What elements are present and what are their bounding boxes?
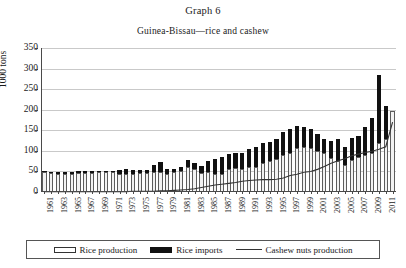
x-axis-tick-label: 1973 [129, 197, 137, 213]
chart-legend: Rice production Rice imports Cashew nuts… [26, 240, 380, 259]
x-axis-tick-mark [358, 191, 359, 194]
x-axis-tick-mark [99, 191, 100, 194]
x-axis-tick-mark [304, 191, 305, 194]
y-axis-tick-mark [35, 151, 38, 152]
x-axis-tick-label: 1979 [170, 197, 178, 213]
chart-subtitle: Guinea-Bissau—rice and cashew [0, 26, 406, 36]
x-axis-tick-label: 1963 [61, 197, 69, 213]
x-axis-tick-mark [297, 191, 298, 194]
x-axis-tick-mark [270, 191, 271, 194]
x-axis-tick-mark [379, 191, 380, 194]
x-axis-tick-mark [72, 191, 73, 194]
x-axis-tick-label: 2009 [375, 197, 383, 213]
x-axis-tick-mark [222, 191, 223, 194]
cashew-nuts-production-line [44, 122, 392, 192]
x-axis-tick-mark [317, 191, 318, 194]
x-axis-tick-mark [393, 191, 394, 194]
x-axis-tick-mark [181, 191, 182, 194]
legend-item-rice-production: Rice production [54, 245, 138, 255]
chart-figure: Graph 6 Guinea-Bissau—rice and cashew 10… [0, 0, 406, 268]
x-axis-tick-mark [201, 191, 202, 194]
x-axis-tick-mark [195, 191, 196, 194]
x-axis-tick-mark [290, 191, 291, 194]
x-axis-tick-mark [120, 191, 121, 194]
x-axis-tick-label: 2011 [389, 197, 397, 213]
x-axis-tick-label: 1985 [211, 197, 219, 213]
x-axis-tick-label: 2003 [334, 197, 342, 213]
y-axis-tick-mark [35, 171, 38, 172]
x-axis-tick-label: 1991 [252, 197, 260, 213]
y-axis-tick-mark [35, 110, 38, 111]
x-axis-tick-mark [188, 191, 189, 194]
legend-item-rice-imports: Rice imports [150, 245, 222, 255]
x-axis-tick-label: 1989 [239, 197, 247, 213]
x-axis-tick-mark [331, 191, 332, 194]
x-axis-tick-mark [92, 191, 93, 194]
x-axis-tick-mark [85, 191, 86, 194]
x-axis-tick-mark [229, 191, 230, 194]
x-axis-tick-label: 1987 [225, 197, 233, 213]
legend-label: Rice production [80, 245, 138, 255]
x-axis-tick-mark [236, 191, 237, 194]
y-axis-tick-mark [35, 192, 38, 193]
x-axis-tick-mark [154, 191, 155, 194]
legend-label: Cashew nuts production [266, 245, 353, 255]
x-axis-tick-mark [277, 191, 278, 194]
x-axis-tick-label: 1961 [47, 197, 55, 213]
legend-label: Rice imports [176, 245, 222, 255]
x-axis-tick-label: 2005 [348, 197, 356, 213]
x-axis-tick-mark [208, 191, 209, 194]
x-axis-tick-mark [126, 191, 127, 194]
x-axis-tick-mark [160, 191, 161, 194]
x-axis-tick-label: 2001 [320, 197, 328, 213]
bar-hollow-swatch-icon [54, 247, 76, 253]
x-axis-tick-label: 1977 [157, 197, 165, 213]
x-axis-tick-label: 1983 [198, 197, 206, 213]
x-axis-tick-mark [352, 191, 353, 194]
x-axis-tick-mark [44, 191, 45, 194]
x-axis-tick-label: 1995 [280, 197, 288, 213]
x-axis-tick-mark [242, 191, 243, 194]
x-axis-tick-mark [133, 191, 134, 194]
x-axis-tick-mark [345, 191, 346, 194]
x-axis-tick-label: 1999 [307, 197, 315, 213]
x-axis-tick-mark [365, 191, 366, 194]
x-axis-tick-label: 1975 [143, 197, 151, 213]
x-axis-tick-label: 1967 [88, 197, 96, 213]
x-axis-tick-label: 2007 [361, 197, 369, 213]
y-axis-tick-mark [35, 69, 38, 70]
x-axis-tick-mark [106, 191, 107, 194]
x-axis-tick-mark [283, 191, 284, 194]
x-axis-tick-label: 1997 [293, 197, 301, 213]
x-axis-tick-mark [58, 191, 59, 194]
line-swatch-icon [236, 249, 262, 250]
x-axis-tick-mark [174, 191, 175, 194]
x-axis-tick-label: 1981 [184, 197, 192, 213]
x-axis-tick-mark [372, 191, 373, 194]
x-axis-tick-mark [311, 191, 312, 194]
x-axis-tick-mark [338, 191, 339, 194]
page-title: Graph 6 [0, 5, 406, 16]
x-axis-tick-mark [324, 191, 325, 194]
x-axis-tick-mark [249, 191, 250, 194]
x-axis-tick-mark [79, 191, 80, 194]
legend-item-cashew-nuts-production: Cashew nuts production [236, 245, 353, 255]
y-axis-tick-labels: 050100150200250300350 [0, 48, 38, 192]
bar-solid-swatch-icon [150, 247, 172, 253]
x-axis-tick-mark [167, 191, 168, 194]
x-axis-tick-mark [51, 191, 52, 194]
x-axis-tick-mark [263, 191, 264, 194]
x-axis-tick-labels: 1961196319651967196919711973197519771979… [41, 194, 396, 238]
x-axis-tick-mark [256, 191, 257, 194]
y-axis-tick-mark [35, 89, 38, 90]
x-axis-tick-label: 1993 [266, 197, 274, 213]
x-axis-tick-mark [140, 191, 141, 194]
x-axis-line [41, 191, 396, 192]
x-axis-tick-label: 1965 [75, 197, 83, 213]
x-axis-tick-mark [113, 191, 114, 194]
cashew-line-series [41, 48, 396, 192]
x-axis-tick-mark [147, 191, 148, 194]
x-axis-tick-label: 1969 [102, 197, 110, 213]
y-axis-tick-mark [35, 130, 38, 131]
y-axis-tick-mark [35, 48, 38, 49]
